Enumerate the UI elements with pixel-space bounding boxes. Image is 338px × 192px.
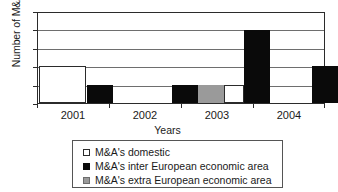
white-square-icon (83, 149, 90, 156)
legend-label-domestic: M&A's domestic (95, 146, 170, 158)
gridline-4 (38, 30, 324, 31)
legend-label-extra: M&A's extra European economic area (95, 174, 272, 186)
bar-2002-extra (198, 85, 224, 103)
x-tick-label-2001: 2001 (43, 109, 103, 121)
bar-2003-inter (244, 30, 270, 103)
bar-2002-inter (172, 85, 198, 103)
x-tick-label-2003: 2003 (187, 109, 247, 121)
bar-2001-domestic (39, 66, 86, 103)
x-tick-label-2002: 2002 (115, 109, 175, 121)
chart-legend: M&A's domestic M&A's inter European econ… (72, 140, 283, 188)
y-axis-title: Number of M&A's (10, 0, 24, 80)
plot-area (37, 12, 325, 104)
gray-square-icon (83, 177, 90, 184)
x-tick-mark-3 (253, 104, 254, 108)
legend-item-domestic: M&A's domestic (83, 145, 282, 159)
legend-label-inter: M&A's inter European economic area (95, 160, 269, 172)
x-tick-mark-2 (181, 104, 182, 108)
x-tick-mark-0 (37, 104, 38, 108)
x-tick-mark-1 (109, 104, 110, 108)
black-square-icon (83, 163, 90, 170)
legend-item-extra: M&A's extra European economic area (83, 173, 282, 187)
bar-2004-inter (312, 66, 338, 103)
gridline-3 (38, 49, 324, 50)
x-tick-mark-4 (324, 104, 325, 108)
bar-2003-domestic (224, 85, 244, 103)
x-tick-label-2004: 2004 (259, 109, 319, 121)
bar-2001-inter (87, 85, 113, 103)
legend-item-inter: M&A's inter European economic area (83, 159, 282, 173)
x-axis-title: Years (0, 124, 335, 136)
